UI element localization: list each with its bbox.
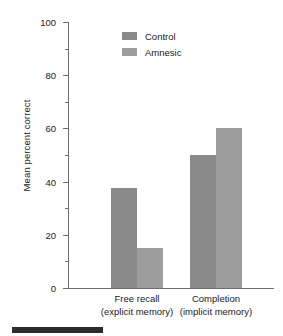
plot-area: 020406080100 [68,22,274,288]
y-axis-title: Mean percent correct [21,56,32,236]
y-tick-label: 60 [45,123,56,134]
chart-legend: Control Amnesic [122,28,181,60]
legend-item-amnesic[interactable]: Amnesic [122,44,181,60]
y-tick-major: 20 [63,235,68,236]
y-tick-minor [65,208,68,209]
caption-rule [12,327,103,333]
x-axis-group-label-line2: (implicit memory) [180,306,252,319]
y-tick-minor [65,155,68,156]
legend-swatch-control [122,32,137,40]
y-tick-major: 40 [63,182,68,183]
x-axis-group-label-line1: Completion [180,293,252,306]
y-tick-minor [65,261,68,262]
y-tick-major: 60 [63,128,68,129]
legend-swatch-amnesic [122,48,137,56]
bar-control-0 [111,188,137,288]
legend-label-control: Control [145,31,176,42]
bar-amnesic-1 [216,128,242,288]
y-tick-label: 40 [45,176,56,187]
legend-item-control[interactable]: Control [122,28,181,44]
x-axis-line [68,288,274,289]
x-axis-group-label-completion: Completion (implicit memory) [180,293,252,318]
y-axis-line [68,22,69,289]
y-tick-major: 100 [63,22,68,23]
y-tick-major: 80 [63,75,68,76]
x-axis-group-label-free-recall: Free recall (explicit memory) [101,293,173,318]
y-tick-label: 0 [51,283,56,294]
legend-label-amnesic: Amnesic [145,47,181,58]
y-tick-major: 0 [63,288,68,289]
bar-amnesic-0 [137,248,163,288]
x-axis-group-label-line2: (explicit memory) [101,306,173,319]
y-tick-minor [65,102,68,103]
x-axis-group-label-line1: Free recall [101,293,173,306]
y-tick-label: 100 [40,17,56,28]
bar-chart-figure: Mean percent correct 020406080100 Contro… [0,0,283,336]
y-tick-minor [65,49,68,50]
bar-control-1 [190,155,216,288]
y-tick-label: 80 [45,70,56,81]
y-tick-label: 20 [45,229,56,240]
